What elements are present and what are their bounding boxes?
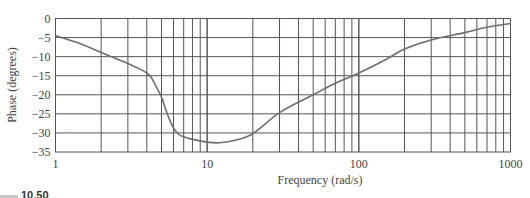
figure-number: 10.50 [21,189,49,198]
figure-caption: 10.50 [0,189,49,198]
x-tick-labels: 1101001000 [53,157,523,171]
y-tick-label: 0 [45,12,51,26]
plot-frame [56,19,511,153]
y-axis-label-text: Phase (degrees) [5,47,20,123]
x-axis-label: Frequency (rad/s) [0,173,530,188]
y-tick-label: −30 [32,126,51,140]
y-tick-label: −15 [32,69,51,83]
y-tick-label: −25 [32,107,51,121]
x-tick-label: 1 [53,157,59,171]
x-tick-label: 100 [350,157,368,171]
y-tick-label: −20 [32,88,51,102]
caption-rule [0,195,18,198]
phase-curve [56,24,511,143]
x-tick-label: 10 [201,157,213,171]
y-tick-label: −10 [32,50,51,64]
y-tick-labels: 0−5−10−15−20−25−30−35 [32,12,51,160]
phase-plot: 0−5−10−15−20−25−30−35 1101001000 [0,0,530,198]
plot-grid [56,19,511,153]
y-tick-label: −5 [38,31,51,45]
y-axis-label: Phase (degrees) [4,18,20,152]
x-tick-label: 1000 [499,157,523,171]
y-tick-label: −35 [32,145,51,159]
